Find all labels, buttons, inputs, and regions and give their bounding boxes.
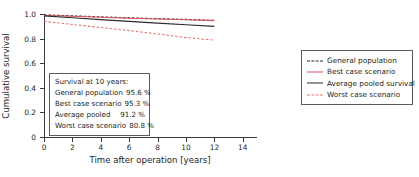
legend-line-dashed-red-icon xyxy=(307,91,323,98)
legend-item-general-population[interactable]: General population xyxy=(307,55,407,66)
legend-item-average-pooled-survival[interactable]: Average pooled survival xyxy=(307,78,407,89)
legend-line-solid-dark-icon xyxy=(307,80,323,87)
stats-row-value: 95.3 % xyxy=(125,99,150,110)
chart-legend: General population Best case scenario Av… xyxy=(301,50,413,105)
legend-label-worst-case-scenario: Worst case scenario xyxy=(327,89,400,100)
stats-row-value: 80.8 % xyxy=(129,121,154,132)
stats-row: General population95.6 % xyxy=(55,88,145,99)
legend-label-average-pooled-survival: Average pooled survival xyxy=(327,78,415,89)
stats-box-rows: General population95.6 %Best case scenar… xyxy=(55,88,145,132)
stats-row-value: 95.6 % xyxy=(126,88,151,99)
legend-label-best-case-scenario: Best case scenario xyxy=(327,66,395,77)
stats-box-title: Survival at 10 years: xyxy=(55,77,145,86)
stats-row-label: General population xyxy=(55,88,126,99)
legend-label-general-population: General population xyxy=(327,55,397,66)
legend-line-dashed-dark-icon xyxy=(307,57,323,64)
legend-item-best-case-scenario[interactable]: Best case scenario xyxy=(307,66,407,77)
legend-item-worst-case-scenario[interactable]: Worst case scenario xyxy=(307,89,407,100)
curve-worst-case-scenario xyxy=(44,21,214,40)
legend-line-solid-red-icon xyxy=(307,68,323,75)
stats-row-value: 91.2 % xyxy=(120,110,145,121)
stats-row-label: Best case scenario xyxy=(55,99,125,110)
stats-row: Best case scenario95.3 % xyxy=(55,99,145,110)
survival-chart-figure: 0246810121400.20.40.60.81.0 Time after o… xyxy=(0,0,419,177)
stats-row-label: Worst case scenario xyxy=(55,121,129,132)
stats-row: Worst case scenario80.8 % xyxy=(55,121,145,132)
stats-row: Average pooled91.2 % xyxy=(55,110,145,121)
survival-at-10-years-box: Survival at 10 years: General population… xyxy=(49,73,150,136)
stats-row-label: Average pooled xyxy=(55,110,113,121)
